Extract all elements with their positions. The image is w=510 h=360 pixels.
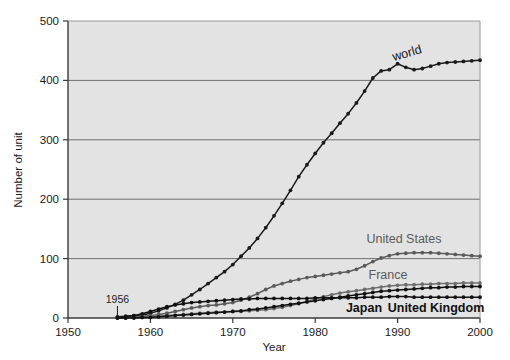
- data-point: [355, 289, 359, 293]
- data-point: [412, 251, 416, 255]
- y-axis-title: Number of unit: [12, 131, 24, 207]
- data-point: [280, 201, 284, 205]
- data-point: [470, 295, 474, 299]
- data-point: [256, 307, 260, 311]
- line-chart: 0100200300400500 19501960197019801990200…: [0, 0, 510, 360]
- data-point: [379, 285, 383, 289]
- data-point: [305, 300, 309, 304]
- data-point: [371, 260, 375, 264]
- data-point: [404, 251, 408, 255]
- data-point: [297, 301, 301, 305]
- series-label-united-kingdom: United Kingdom: [388, 301, 485, 315]
- data-point: [470, 281, 474, 285]
- y-tick-label-500: 500: [40, 15, 59, 27]
- data-point: [272, 214, 276, 218]
- plot-area-background: [68, 21, 480, 318]
- data-point: [445, 252, 449, 256]
- data-point: [387, 68, 391, 72]
- data-point: [338, 121, 342, 125]
- data-point: [338, 271, 342, 275]
- data-point: [437, 251, 441, 255]
- data-point: [330, 131, 334, 135]
- data-point: [247, 297, 251, 301]
- data-point: [420, 282, 424, 286]
- data-point: [437, 282, 441, 286]
- data-point: [338, 296, 342, 300]
- data-point: [387, 254, 391, 258]
- data-point: [453, 285, 457, 289]
- x-tick-label-1990: 1990: [385, 326, 411, 338]
- data-point: [462, 281, 466, 285]
- x-axis-title: Year: [262, 341, 285, 353]
- data-point: [289, 188, 293, 192]
- data-point: [190, 313, 194, 317]
- data-point: [371, 295, 375, 299]
- data-point: [363, 295, 367, 299]
- data-point: [412, 283, 416, 287]
- series-label-united-states: United States: [366, 232, 441, 246]
- data-point: [214, 276, 218, 280]
- data-point: [181, 302, 185, 306]
- data-point: [297, 297, 301, 301]
- data-point: [412, 287, 416, 291]
- data-point: [305, 163, 309, 167]
- data-point: [247, 246, 251, 250]
- data-point: [231, 310, 235, 314]
- data-point: [173, 310, 177, 314]
- data-point: [289, 297, 293, 301]
- data-point: [437, 62, 441, 66]
- data-point: [396, 283, 400, 287]
- data-point: [363, 292, 367, 296]
- data-point: [289, 302, 293, 306]
- data-point: [478, 281, 482, 285]
- data-point: [462, 295, 466, 299]
- data-point: [453, 253, 457, 257]
- annotation-1956: 1956: [106, 293, 130, 305]
- data-point: [322, 141, 326, 145]
- data-point: [346, 270, 350, 274]
- data-point: [198, 288, 202, 292]
- data-point: [313, 275, 317, 279]
- data-point: [206, 311, 210, 315]
- data-point: [404, 295, 408, 299]
- data-point: [355, 267, 359, 271]
- data-point: [181, 298, 185, 302]
- data-point: [420, 251, 424, 255]
- data-point: [445, 285, 449, 289]
- data-point: [420, 286, 424, 290]
- data-point: [181, 313, 185, 317]
- data-point: [453, 295, 457, 299]
- data-point: [379, 295, 383, 299]
- data-point: [198, 312, 202, 316]
- data-point: [470, 59, 474, 63]
- data-point: [429, 295, 433, 299]
- data-point: [346, 112, 350, 116]
- data-point: [157, 315, 161, 319]
- data-point: [239, 309, 243, 313]
- data-point: [190, 293, 194, 297]
- data-point: [305, 297, 309, 301]
- data-point: [140, 316, 144, 320]
- data-point: [157, 307, 161, 311]
- data-point: [478, 285, 482, 289]
- data-point: [264, 226, 268, 230]
- data-point: [346, 290, 350, 294]
- data-point: [297, 175, 301, 179]
- data-point: [404, 288, 408, 292]
- data-point: [223, 310, 227, 314]
- data-point: [124, 315, 128, 319]
- data-point: [223, 270, 227, 274]
- data-point: [462, 253, 466, 257]
- data-point: [379, 256, 383, 260]
- data-point: [173, 314, 177, 318]
- data-point: [371, 286, 375, 290]
- data-point: [272, 284, 276, 288]
- data-point: [256, 297, 260, 301]
- data-point: [478, 295, 482, 299]
- data-point: [396, 295, 400, 299]
- data-point: [346, 296, 350, 300]
- data-point: [223, 302, 227, 306]
- y-tick-label-400: 400: [40, 74, 59, 86]
- y-tick-label-0: 0: [53, 312, 59, 324]
- data-point: [396, 288, 400, 292]
